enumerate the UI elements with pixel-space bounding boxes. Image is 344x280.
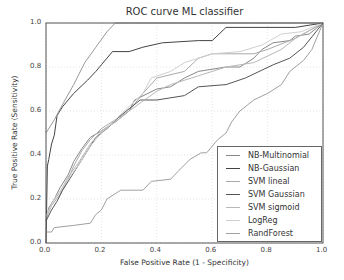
x-tick-label: 1.0	[316, 246, 327, 254]
legend-swatch	[226, 181, 240, 182]
y-tick-label: 0.2	[30, 194, 41, 202]
x-tick-label: 0.0	[39, 246, 50, 254]
x-axis-label: False Positive Rate (1 - Specificity)	[46, 258, 323, 267]
legend-label: LogReg	[248, 216, 278, 225]
x-tick-label: 0.6	[205, 246, 216, 254]
y-tick-label: 0.8	[30, 62, 41, 70]
y-tick-label: 0.0	[30, 238, 41, 246]
y-tick-label: 0.4	[30, 150, 41, 158]
legend: NB-MultinomialNB-GaussianSVM linealSVM G…	[217, 146, 322, 242]
y-axis-label: True Positive Rate (Sensitivity)	[10, 63, 19, 203]
x-tick-label: 0.8	[261, 246, 272, 254]
legend-swatch	[226, 207, 240, 208]
legend-item: SVM Gaussian	[222, 188, 321, 201]
legend-label: SVM sigmoid	[248, 203, 299, 212]
chart-title: ROC curve ML classifier	[46, 6, 323, 17]
legend-swatch	[226, 194, 240, 195]
legend-label: SVM lineal	[248, 177, 290, 186]
legend-swatch	[226, 168, 240, 169]
x-tick-label: 0.4	[150, 246, 161, 254]
y-tick-label: 0.6	[30, 106, 41, 114]
legend-label: NB-Gaussian	[248, 164, 299, 173]
legend-swatch	[226, 220, 240, 221]
legend-item: NB-Gaussian	[222, 162, 321, 175]
legend-item: NB-Multinomial	[222, 149, 321, 162]
x-tick-label: 0.2	[94, 246, 105, 254]
legend-label: SVM Gaussian	[248, 190, 305, 199]
legend-item: SVM lineal	[222, 175, 321, 188]
legend-label: NB-Multinomial	[248, 151, 309, 160]
legend-item: LogReg	[222, 214, 321, 227]
y-tick-label: 1.0	[30, 18, 41, 26]
legend-swatch	[226, 155, 240, 156]
legend-item: SVM sigmoid	[222, 201, 321, 214]
legend-label: RandForest	[248, 229, 293, 238]
legend-item: RandForest	[222, 227, 321, 240]
legend-swatch	[226, 233, 240, 234]
